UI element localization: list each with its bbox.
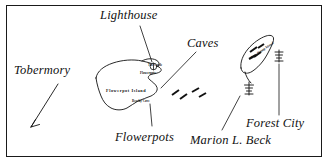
leader-marion-l-beck xyxy=(222,96,240,130)
label-caves: Caves xyxy=(187,37,219,50)
leader-flowerpots xyxy=(150,104,152,126)
leader-lighthouse xyxy=(140,26,152,62)
bear-rump-island-south-tail xyxy=(245,72,251,83)
label-forest-city: Forest City xyxy=(246,117,304,130)
label-the-castle: The Castle xyxy=(148,63,162,67)
label-flowerpots-small: Flowerpots xyxy=(140,71,156,75)
tobermory-arrow xyxy=(31,84,58,127)
caves-shoal-marks xyxy=(172,88,206,99)
label-lighthouse: Lighthouse xyxy=(100,9,158,22)
label-tobermory: Tobermory xyxy=(14,64,70,77)
label-flowerpot-island: Flowerpot Island xyxy=(106,88,146,93)
forest-city-wreck xyxy=(275,50,283,62)
leader-caves xyxy=(161,52,196,88)
label-beachy-cove: Beachy Cove xyxy=(132,99,150,103)
map-figure: Lighthouse Caves Tobermory Flowerpots Ma… xyxy=(0,0,330,165)
marion-l-beck-wreck xyxy=(245,82,254,95)
label-marion-l-beck: Marion L. Beck xyxy=(190,134,271,147)
label-flowerpots: Flowerpots xyxy=(115,131,174,144)
